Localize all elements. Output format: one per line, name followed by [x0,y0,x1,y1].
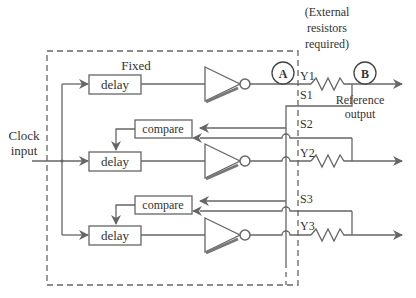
inverter-2 [205,144,250,179]
clock-input-label-1: Clock [8,128,40,143]
pin-s3: S3 [300,192,313,206]
annotation-line-1: (External [305,5,350,19]
delay-block-3: delay [89,226,141,245]
resistor-3 [311,229,352,241]
annotation-line-3: required) [305,37,349,51]
svg-text:compare: compare [142,122,183,136]
pin-y3: Y3 [300,219,315,233]
pin-y1: Y1 [300,69,315,83]
compare-block-2: compare [135,196,192,214]
pin-s2: S2 [300,117,313,131]
svg-text:delay: delay [101,77,130,92]
inverter-1 [205,67,250,102]
svg-text:compare: compare [142,198,183,212]
svg-text:delay: delay [101,228,130,243]
svg-text:delay: delay [101,154,130,169]
pin-y2: Y2 [300,146,315,160]
inverter-3 [205,218,250,253]
chip-boundary [47,51,298,285]
reference-output-label-2: output [345,107,376,121]
svg-text:B: B [361,67,369,81]
clock-distribution-diagram: delay delay delay compare compare [0,0,416,298]
node-b: B [354,62,376,84]
pin-s1: S1 [300,88,313,102]
reference-output-label-1: Reference [336,93,385,107]
svg-text:A: A [279,67,288,81]
clock-input-label-2: input [11,143,38,158]
delay-block-1: delay [89,75,141,94]
annotation-line-2: resistors [307,21,347,35]
resistor-1 [311,78,352,90]
delay-block-2: delay [89,152,141,171]
fixed-label: Fixed [121,58,151,73]
node-a: A [272,62,294,84]
compare-block-1: compare [135,120,192,138]
resistor-2 [311,155,352,167]
